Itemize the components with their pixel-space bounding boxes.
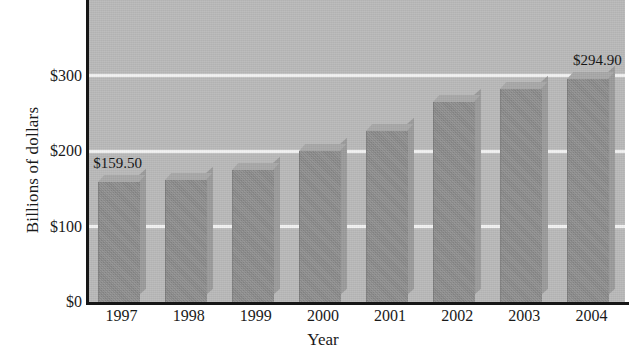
x-axis-tick-label: 2002 xyxy=(441,307,473,325)
x-axis-tick-label: 1999 xyxy=(240,307,272,325)
bar-front-face xyxy=(299,151,341,302)
bar-front-face xyxy=(433,102,475,302)
bar-value-label: $159.50 xyxy=(93,155,142,172)
y-axis-line xyxy=(86,0,89,304)
bar-top-face xyxy=(165,173,212,180)
bar-side-face xyxy=(340,138,347,295)
y-axis-tick-label: $200 xyxy=(34,142,82,160)
bar-top-face xyxy=(567,72,614,79)
bar-side-face xyxy=(139,168,146,295)
x-axis-tick-label: 1998 xyxy=(173,307,205,325)
bar-chart: Billions of dollars $0$100$200$300 $159.… xyxy=(0,0,631,356)
bar-top-face xyxy=(98,175,145,182)
bar-side-face xyxy=(474,89,481,295)
bar xyxy=(500,89,541,302)
bar-top-face xyxy=(500,82,547,89)
bar-value-label: $294.90 xyxy=(573,52,622,69)
x-axis-line xyxy=(86,302,629,305)
bar xyxy=(98,182,139,302)
bar-front-face xyxy=(232,170,274,302)
bar-side-face xyxy=(541,76,548,295)
x-axis-tick-label: 2003 xyxy=(508,307,540,325)
plot-area: $159.50$294.90 xyxy=(88,0,625,302)
bar-side-face xyxy=(407,117,414,295)
bar-top-face xyxy=(299,144,346,151)
bar-top-face xyxy=(232,163,279,170)
bar xyxy=(299,151,340,302)
bar-top-face xyxy=(366,124,413,131)
y-axis-tick-label: $0 xyxy=(34,293,82,311)
bar-front-face xyxy=(98,182,140,302)
x-axis-tick-labels: 19971998199920002001200220032004 xyxy=(88,307,625,331)
x-axis-tick-label: 2001 xyxy=(374,307,406,325)
bar-side-face xyxy=(206,166,213,295)
bar xyxy=(232,170,273,302)
bar-top-face xyxy=(433,95,480,102)
x-axis-tick-label: 2000 xyxy=(307,307,339,325)
y-axis-tick-label: $100 xyxy=(34,218,82,236)
y-axis-tick-labels: $0$100$200$300 xyxy=(34,0,82,356)
x-axis-title: Year xyxy=(88,330,558,350)
y-axis-tick-label: $300 xyxy=(34,67,82,85)
x-axis-tick-label: 2004 xyxy=(575,307,607,325)
bar-side-face xyxy=(273,157,280,295)
bar-side-face xyxy=(608,66,615,295)
gridline xyxy=(88,74,625,77)
bar-front-face xyxy=(567,79,609,302)
bar-front-face xyxy=(500,89,542,302)
bar xyxy=(567,79,608,302)
bar-front-face xyxy=(165,180,207,302)
bar xyxy=(165,180,206,302)
bar xyxy=(433,102,474,302)
x-axis-tick-label: 1997 xyxy=(106,307,138,325)
bar-front-face xyxy=(366,131,408,302)
bar xyxy=(366,131,407,302)
